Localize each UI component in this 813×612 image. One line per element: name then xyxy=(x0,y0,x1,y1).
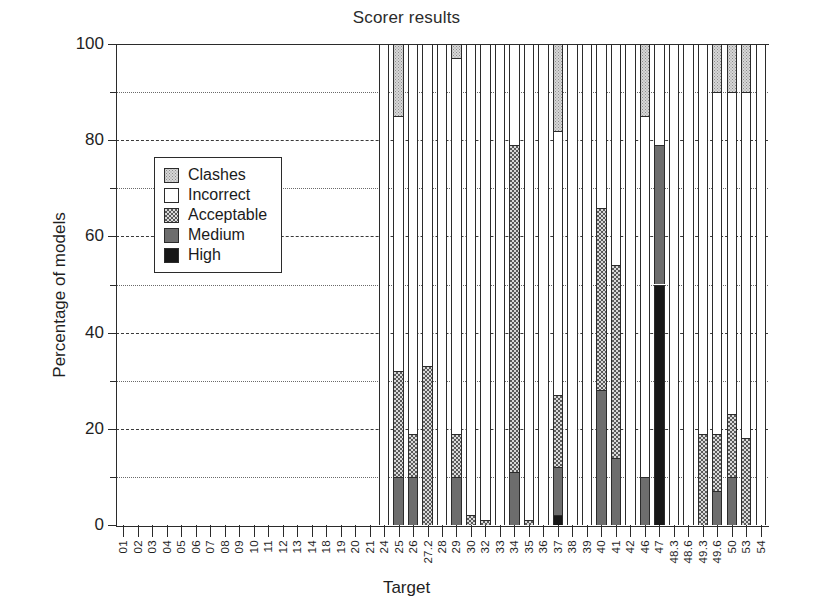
x-tick xyxy=(196,525,197,537)
x-tick xyxy=(601,525,602,537)
x-tick xyxy=(500,525,501,537)
bar-segment-clashes xyxy=(640,44,650,116)
legend-label: Incorrect xyxy=(188,187,250,203)
bar-49.6[interactable] xyxy=(712,44,722,525)
bar-42[interactable] xyxy=(625,44,635,525)
x-tick-label: 48.6 xyxy=(682,540,694,564)
y-tick-major xyxy=(108,333,117,334)
bar-segment-incorrect xyxy=(480,44,490,520)
bar-26[interactable] xyxy=(408,44,418,525)
x-tick xyxy=(210,525,211,537)
bar-34[interactable] xyxy=(509,44,519,525)
x-tick xyxy=(630,525,631,537)
bar-33[interactable] xyxy=(495,44,505,525)
bar-53[interactable] xyxy=(741,44,751,525)
x-tick xyxy=(181,525,182,537)
bar-segment-incorrect xyxy=(756,44,766,525)
x-tick xyxy=(138,525,139,537)
x-tick-label: 08 xyxy=(219,540,231,553)
bar-36[interactable] xyxy=(538,44,548,525)
bar-47[interactable] xyxy=(654,44,664,525)
x-tick-label: 28 xyxy=(436,540,448,553)
bar-segment-clashes xyxy=(741,44,751,92)
x-tick-label: 24 xyxy=(378,540,390,553)
x-tick-label: 19 xyxy=(335,540,347,553)
x-tick xyxy=(558,525,559,537)
legend-item-medium[interactable]: Medium xyxy=(164,225,267,245)
legend-item-clashes[interactable]: Clashes xyxy=(164,165,267,185)
bar-segment-incorrect xyxy=(538,44,548,525)
bar-segment-medium xyxy=(393,477,403,525)
bar-25[interactable] xyxy=(393,44,403,525)
x-tick xyxy=(399,525,400,537)
bar-54[interactable] xyxy=(756,44,766,525)
x-tick xyxy=(428,525,429,537)
y-tick-label: 40 xyxy=(85,323,104,343)
bar-segment-clashes xyxy=(393,44,403,116)
x-tick-label: 01 xyxy=(117,540,129,553)
legend-label: Medium xyxy=(188,227,245,243)
bar-27.2[interactable] xyxy=(422,44,432,525)
x-tick-label: 39 xyxy=(581,540,593,553)
legend-item-high[interactable]: High xyxy=(164,245,267,265)
x-tick xyxy=(717,525,718,537)
x-tick-label: 10 xyxy=(248,540,260,553)
x-tick xyxy=(587,525,588,537)
bar-48.3[interactable] xyxy=(669,44,679,525)
bar-segment-medium xyxy=(640,477,650,525)
plot-area xyxy=(116,44,768,525)
bar-segment-incorrect xyxy=(437,44,447,525)
legend-item-acceptable[interactable]: Acceptable xyxy=(164,205,267,225)
bar-segment-incorrect xyxy=(553,131,563,396)
bar-segment-medium xyxy=(611,458,621,525)
legend-label: High xyxy=(188,247,221,263)
x-tick xyxy=(471,525,472,537)
y-tick-minor xyxy=(110,92,117,93)
bar-37[interactable] xyxy=(553,44,563,525)
x-tick xyxy=(456,525,457,537)
bar-segment-incorrect xyxy=(393,116,403,371)
bar-29[interactable] xyxy=(451,44,461,525)
bar-38[interactable] xyxy=(567,44,577,525)
legend-item-incorrect[interactable]: Incorrect xyxy=(164,185,267,205)
bar-24[interactable] xyxy=(379,44,389,525)
x-tick xyxy=(384,525,385,537)
bar-28[interactable] xyxy=(437,44,447,525)
x-tick-label: 36 xyxy=(537,540,549,553)
legend-swatch-icon xyxy=(164,248,179,263)
x-tick xyxy=(761,525,762,537)
bar-32[interactable] xyxy=(480,44,490,525)
x-tick-label: 11 xyxy=(262,540,274,553)
x-tick-label: 06 xyxy=(190,540,202,553)
x-tick-label: 05 xyxy=(175,540,187,553)
y-tick-major xyxy=(108,140,117,141)
x-tick-label: 20 xyxy=(349,540,361,553)
y-tick-major xyxy=(108,525,117,526)
x-tick-label: 25 xyxy=(393,540,405,553)
bar-50[interactable] xyxy=(727,44,737,525)
bar-segment-incorrect xyxy=(567,44,577,525)
bar-segment-incorrect xyxy=(698,44,708,434)
x-tick xyxy=(326,525,327,537)
bar-segment-incorrect xyxy=(379,44,389,525)
y-tick-major xyxy=(108,44,117,45)
bar-segment-incorrect xyxy=(495,44,505,525)
bar-segment-acceptable xyxy=(422,366,432,525)
bar-46[interactable] xyxy=(640,44,650,525)
bar-39[interactable] xyxy=(582,44,592,525)
bar-segment-incorrect xyxy=(596,44,606,208)
bar-48.6[interactable] xyxy=(683,44,693,525)
legend-swatch-icon xyxy=(164,208,179,223)
x-tick xyxy=(485,525,486,537)
bar-35[interactable] xyxy=(524,44,534,525)
bar-segment-incorrect xyxy=(408,44,418,434)
legend-swatch-icon xyxy=(164,168,179,183)
bar-41[interactable] xyxy=(611,44,621,525)
bar-49.3[interactable] xyxy=(698,44,708,525)
bar-30[interactable] xyxy=(466,44,476,525)
bar-segment-medium xyxy=(654,145,664,284)
x-tick xyxy=(152,525,153,537)
bar-segment-incorrect xyxy=(582,44,592,525)
bar-segment-incorrect xyxy=(422,44,432,366)
bar-40[interactable] xyxy=(596,44,606,525)
